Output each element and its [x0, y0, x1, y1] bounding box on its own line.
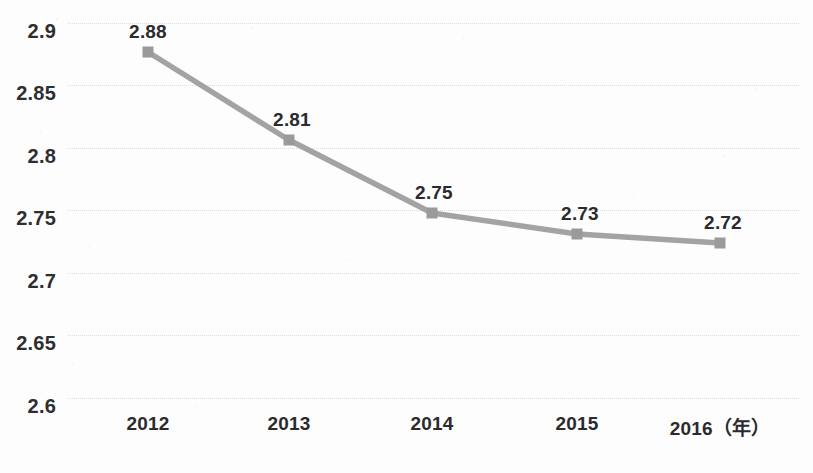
- data-point-marker[interactable]: [715, 238, 726, 249]
- data-point-label-2014: 2.75: [415, 182, 453, 204]
- data-point-label-2015: 2.73: [561, 203, 599, 225]
- x-axis-unit-label: （年）: [713, 418, 771, 439]
- x-axis-tick-label-2014: 2014: [410, 413, 453, 435]
- x-axis-tick-label-2013: 2013: [267, 413, 310, 435]
- chart-page: 2.9 2.85 2.8 2.75 2.7 2.65 2.6 2.88 2.81…: [0, 0, 813, 473]
- line-chart: 2.9 2.85 2.8 2.75 2.7 2.65 2.6 2.88 2.81…: [0, 0, 813, 473]
- data-point-marker[interactable]: [572, 229, 583, 240]
- x-axis-tick-label-2016: 2016（年）: [670, 413, 771, 440]
- x-axis-tick-label-2016-value: 2016: [670, 418, 713, 439]
- data-point-label-2016: 2.72: [704, 212, 742, 234]
- data-point-marker[interactable]: [284, 135, 295, 146]
- data-point-marker[interactable]: [143, 47, 154, 58]
- x-axis-tick-label-2015: 2015: [555, 413, 598, 435]
- series-line-layer: [0, 0, 813, 473]
- data-point-label-2012: 2.88: [129, 21, 167, 43]
- data-point-label-2013: 2.81: [273, 109, 311, 131]
- x-axis-tick-label-2012: 2012: [126, 413, 169, 435]
- data-point-marker[interactable]: [427, 208, 438, 219]
